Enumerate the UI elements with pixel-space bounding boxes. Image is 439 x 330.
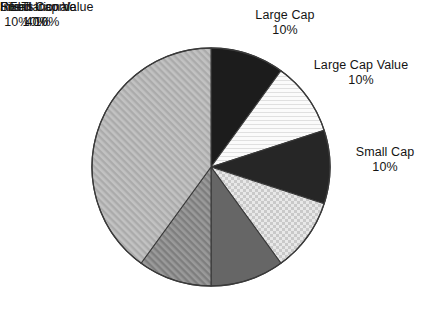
slice-label-fixed-income: Fixed Income 40% [0, 0, 76, 30]
slice-label-large-cap: Large Cap 10% [231, 8, 339, 38]
slice-label-large-cap-value: Large Cap Value 10% [286, 58, 436, 88]
pie-chart: Large Cap 10% Large Cap Value 10% Small … [0, 0, 439, 330]
slice-label-percent: 40% [0, 15, 76, 30]
slice-label-small-cap: Small Cap 10% [334, 145, 436, 175]
slice-label-name: Small Cap [334, 145, 436, 160]
slice-label-percent: 10% [231, 23, 339, 38]
slice-label-percent: 10% [286, 73, 436, 88]
slice-label-name: Large Cap Value [286, 58, 436, 73]
slice-label-name: Large Cap [231, 8, 339, 23]
slice-label-name: Fixed Income [0, 0, 76, 15]
slice-label-percent: 10% [334, 160, 436, 175]
